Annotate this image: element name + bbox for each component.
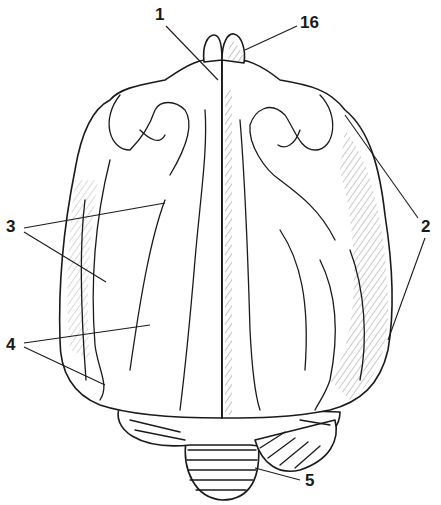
brain-drawing xyxy=(0,0,441,505)
cerebrum xyxy=(60,59,392,418)
label-4: 4 xyxy=(6,336,15,353)
olfactory-bulbs xyxy=(204,34,245,63)
label-5: 5 xyxy=(305,472,314,489)
label-2: 2 xyxy=(421,218,430,235)
leader-16 xyxy=(245,26,297,50)
brainstem xyxy=(185,440,258,500)
label-3: 3 xyxy=(6,218,15,235)
brain-illustration: 1 16 2 3 4 5 xyxy=(0,0,441,505)
label-16: 16 xyxy=(300,14,319,31)
label-1: 1 xyxy=(155,6,164,23)
leader-2b xyxy=(388,238,425,340)
